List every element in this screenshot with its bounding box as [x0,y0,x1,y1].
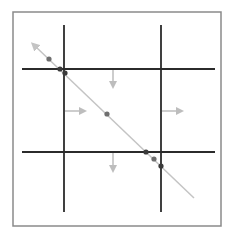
grid-lines [22,25,215,212]
point-7 [158,163,163,168]
point-2 [57,66,62,71]
direction-arrows [65,70,182,171]
point-1 [46,56,51,61]
point-4 [104,111,109,116]
point-3 [62,70,67,75]
point-5 [143,149,148,154]
diagram-canvas [0,0,232,237]
point-6 [151,156,156,161]
